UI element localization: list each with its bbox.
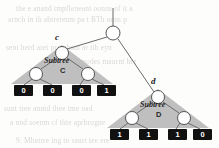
node-label-c: c: [55, 32, 59, 42]
subtree-d-caption-letter: D: [156, 110, 161, 119]
root-node: [106, 26, 120, 40]
leaf-c-2: 0: [43, 85, 62, 96]
node-label-d: d: [151, 76, 156, 86]
tree-figure: the e anand tmpfleneant oonns of it a ar…: [0, 0, 219, 148]
leaf-d-4: 0: [193, 129, 212, 140]
tree-graphics: [0, 0, 219, 148]
leaf-d-2: 1: [139, 129, 158, 140]
leaf-d-3: 1: [168, 129, 187, 140]
leaf-c-1: 0: [14, 85, 33, 96]
subtree-c-caption-word: Subtree: [44, 56, 69, 65]
subtree-c-caption-letter: C: [60, 66, 65, 75]
leaf-c-4: 1: [97, 85, 116, 96]
leaf-c-3: 0: [72, 85, 91, 96]
node-d-left-child: [126, 112, 139, 125]
leaf-d-1: 1: [110, 129, 129, 140]
subtree-d-caption-word: Subtree: [140, 100, 165, 109]
edge-root-to-c: [67, 37, 107, 49]
node-c-right-child: [82, 68, 95, 81]
node-d-right-child: [178, 112, 191, 125]
edge-root-to-d: [118, 39, 154, 92]
node-c-left-child: [30, 68, 43, 81]
